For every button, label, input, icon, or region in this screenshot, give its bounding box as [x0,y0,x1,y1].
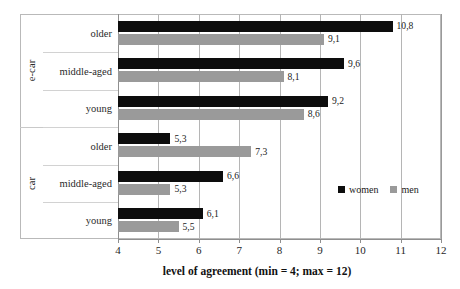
legend-swatch-women-icon [338,186,345,193]
bar-value-label-women-e-car-middle-aged: 9,6 [348,58,360,69]
group-label-car-text: car [26,176,37,189]
category-label-car-older: older [43,127,118,165]
x-tick-4 [118,239,119,243]
x-axis-title: level of agreement (min = 4; max = 12) [0,265,460,277]
bar-value-label-men-car-young: 5,5 [183,221,195,232]
bar-value-label-women-car-young: 6,1 [207,208,219,219]
legend: women men [338,184,419,195]
x-tick-5 [158,239,159,243]
bar-men-car-older [118,146,251,157]
x-tick-10 [360,239,361,243]
bar-value-label-men-car-middle-aged: 5,3 [174,183,186,194]
x-tick-6 [199,239,200,243]
category-separator [43,202,118,203]
bar-value-label-women-e-car-young: 9,2 [332,95,344,106]
category-separator [43,165,118,166]
bar-value-label-women-car-older: 5,3 [174,133,186,144]
x-tick-label-10: 10 [355,244,366,256]
group-label-car: car [20,127,43,239]
bar-row-e-car-middle-aged: 9,68,1 [118,52,441,90]
bar-women-e-car-older [118,21,393,32]
bar-row-e-car-young: 9,28,6 [118,89,441,127]
category-separator [43,90,118,91]
x-tick-label-11: 11 [395,244,406,256]
bar-women-car-young [118,208,203,219]
bar-women-e-car-young [118,96,328,107]
x-tick-label-12: 12 [436,244,447,256]
x-tick-label-6: 6 [196,244,202,256]
bar-value-label-men-e-car-older: 9,1 [328,33,340,44]
x-tick-9 [320,239,321,243]
x-tick-11 [401,239,402,243]
group-divider [20,127,43,128]
plot-area: 10,89,19,68,19,28,65,37,36,65,36,15,5 [118,14,441,239]
bar-value-label-women-car-middle-aged: 6,6 [227,170,239,181]
category-label-ecar-older: older [43,14,118,52]
category-separator [43,127,118,128]
x-tick-label-9: 9 [317,244,323,256]
x-tick-label-8: 8 [277,244,283,256]
legend-label-men: men [401,184,418,195]
legend-item-women: women [338,184,378,195]
category-label-car-middle-aged: middle-aged [43,165,118,202]
bar-value-label-men-e-car-middle-aged: 8,1 [288,71,300,82]
category-separator [43,52,118,53]
bar-value-label-men-e-car-young: 8,6 [308,108,320,119]
category-label-ecar-middle-aged: middle-aged [43,52,118,90]
bar-women-e-car-middle-aged [118,58,344,69]
bar-row-e-car-older: 10,89,1 [118,14,441,52]
bar-men-car-middle-aged [118,184,170,195]
bar-women-car-middle-aged [118,171,223,182]
group-label-e-car: e-car [20,14,43,127]
x-tick-8 [280,239,281,243]
bar-row-car-young: 6,15,5 [118,202,441,240]
bar-men-e-car-older [118,34,324,45]
bar-chart: e-car car older middle-aged young older … [0,0,460,289]
bar-men-e-car-young [118,109,304,120]
x-tick-label-5: 5 [156,244,162,256]
category-label-ecar-young: young [43,90,118,127]
x-tick-7 [239,239,240,243]
bar-row-car-middle-aged: 6,65,3 [118,164,441,202]
x-tick-label-4: 4 [115,244,121,256]
bar-value-label-women-e-car-older: 10,8 [397,20,414,31]
bar-women-car-older [118,133,170,144]
gridline-12 [441,14,442,239]
category-label-car-young: young [43,202,118,239]
bar-men-e-car-middle-aged [118,71,284,82]
legend-swatch-men-icon [390,186,397,193]
legend-item-men: men [390,184,418,195]
legend-label-women: women [349,184,378,195]
bar-men-car-young [118,221,179,232]
x-axis-title-text: level of agreement (min = 4; max = 12) [109,265,352,277]
x-tick-12 [441,239,442,243]
bar-row-car-older: 5,37,3 [118,127,441,165]
group-label-e-car-text: e-car [26,60,37,81]
x-tick-label-7: 7 [236,244,242,256]
bar-value-label-men-car-older: 7,3 [255,146,267,157]
